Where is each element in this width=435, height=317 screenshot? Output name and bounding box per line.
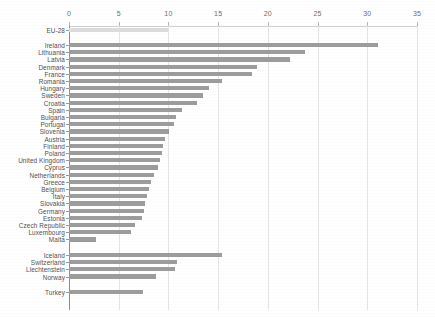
x-tick-label: 20 xyxy=(264,10,272,17)
category-label: Spain xyxy=(48,106,65,113)
bar xyxy=(69,28,168,32)
bar xyxy=(69,43,378,47)
category-label: Greece xyxy=(43,178,65,185)
category-label: Latvia xyxy=(47,56,65,63)
bar-row: Estonia xyxy=(69,214,417,221)
bar-row: Ireland xyxy=(69,41,417,48)
bar-row: Greece xyxy=(69,178,417,185)
bar-row: Turkey xyxy=(69,288,417,295)
bar-row: Belgium xyxy=(69,185,417,192)
bar-row: Malta xyxy=(69,236,417,243)
bar xyxy=(69,57,290,61)
bar xyxy=(69,93,203,97)
bar xyxy=(69,151,162,155)
bar-row: Romania xyxy=(69,77,417,84)
category-label: Austria xyxy=(44,135,65,142)
bar xyxy=(69,201,145,205)
bar xyxy=(69,86,209,90)
bar xyxy=(69,115,176,119)
bar-row: Spain xyxy=(69,106,417,113)
x-tick-label: 15 xyxy=(214,10,222,17)
bar xyxy=(69,65,257,69)
bar-chart: 05101520253035 EU-28IrelandLithuaniaLatv… xyxy=(0,0,435,317)
bar-row: Sweden xyxy=(69,92,417,99)
category-label: Denmark xyxy=(38,63,65,70)
category-label: Iceland xyxy=(44,251,65,258)
bar xyxy=(69,260,177,264)
category-label: Portugal xyxy=(40,121,65,128)
bar xyxy=(69,50,305,54)
bar xyxy=(69,230,131,234)
category-label: Turkey xyxy=(45,289,65,296)
category-label: United Kingdom xyxy=(18,157,65,164)
category-label: Czech Republic xyxy=(19,222,65,229)
bar xyxy=(69,129,169,133)
category-label: Cyprus xyxy=(44,164,65,171)
bar xyxy=(69,274,156,278)
bar xyxy=(69,165,158,169)
bar-row: Denmark xyxy=(69,63,417,70)
bar xyxy=(69,267,175,271)
bar xyxy=(69,223,135,227)
bar-row: Norway xyxy=(69,273,417,280)
bar-row: Poland xyxy=(69,149,417,156)
category-label: Hungary xyxy=(40,85,65,92)
bar-row: Germany xyxy=(69,207,417,214)
category-label: Malta xyxy=(49,236,65,243)
bar xyxy=(69,72,252,76)
bar-row: Czech Republic xyxy=(69,221,417,228)
bar-row: Iceland xyxy=(69,251,417,258)
bar xyxy=(69,253,222,257)
bar xyxy=(69,137,165,141)
bar xyxy=(69,79,222,83)
bar-row: France xyxy=(69,70,417,77)
category-label: Liechtenstein xyxy=(26,266,65,273)
category-label: Sweden xyxy=(41,92,65,99)
bar xyxy=(69,290,143,294)
bar-row: Switzerland xyxy=(69,259,417,266)
bar xyxy=(69,180,151,184)
bar xyxy=(69,209,144,213)
bar xyxy=(69,122,174,126)
bar xyxy=(69,158,160,162)
category-label: Italy xyxy=(53,193,65,200)
category-label: Lithuania xyxy=(38,49,65,56)
plot-area: EU-28IrelandLithuaniaLatviaDenmarkFrance… xyxy=(69,26,417,310)
bar xyxy=(69,173,154,177)
category-label: France xyxy=(45,70,66,77)
bar-row: Portugal xyxy=(69,121,417,128)
bar xyxy=(69,237,96,241)
bar-row: United Kingdom xyxy=(69,157,417,164)
category-label: Estonia xyxy=(43,214,65,221)
bar-row: Luxembourg xyxy=(69,229,417,236)
category-label: Slovakia xyxy=(40,200,65,207)
category-label: EU-28 xyxy=(46,26,65,33)
bar-row: Latvia xyxy=(69,56,417,63)
bar-row: Liechtenstein xyxy=(69,266,417,273)
bar-row: Cyprus xyxy=(69,164,417,171)
x-tick-label: 0 xyxy=(67,10,71,17)
bar xyxy=(69,194,147,198)
category-label: Finland xyxy=(43,142,65,149)
category-label: Norway xyxy=(43,273,65,280)
category-label: Switzerland xyxy=(31,259,65,266)
category-label: Belgium xyxy=(41,186,65,193)
bar-row: Bulgaria xyxy=(69,113,417,120)
category-label: Germany xyxy=(38,207,65,214)
bar-row: Hungary xyxy=(69,85,417,92)
bar-row: Lithuania xyxy=(69,49,417,56)
category-label: Slovenia xyxy=(40,128,65,135)
x-tick-label: 10 xyxy=(164,10,172,17)
x-tick-label: 5 xyxy=(117,10,121,17)
bar-row: Croatia xyxy=(69,99,417,106)
bar xyxy=(69,187,149,191)
x-tick-label: 25 xyxy=(313,10,321,17)
x-tick-label: 35 xyxy=(413,10,421,17)
category-label: Netherlands xyxy=(29,171,65,178)
x-tick-label: 30 xyxy=(363,10,371,17)
bar-row: Slovakia xyxy=(69,200,417,207)
bar xyxy=(69,101,197,105)
category-label: Ireland xyxy=(45,42,65,49)
bar-row: EU-28 xyxy=(69,26,417,33)
bar-row: Austria xyxy=(69,135,417,142)
